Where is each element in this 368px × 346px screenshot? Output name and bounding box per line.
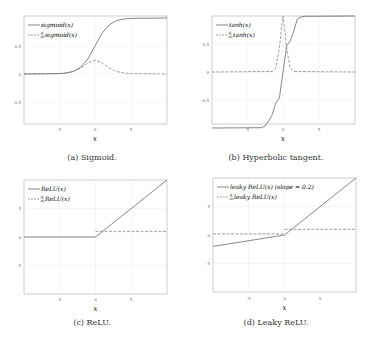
x-tick: -5 (247, 296, 251, 301)
svg-text:ReLU(x): ReLU(x) (44, 195, 71, 202)
y-tick: 5 (207, 204, 210, 209)
y-tick: 0 (207, 233, 210, 238)
svg-text:sigmoid(x): sigmoid(x) (41, 21, 74, 29)
leaky-relu-plot: 5 0 -5 -5 0 5 x leaky ReLU(x) (slope = 0… (184, 170, 368, 320)
caption-b: (b) Hyperbolic tangent. (184, 153, 368, 162)
caption-d: (d) Leaky ReLU. (184, 318, 368, 327)
y-tick: 5 (18, 206, 21, 211)
y-tick: -0.5 (201, 98, 209, 103)
svg-text:tanh(x): tanh(x) (233, 31, 255, 38)
x-tick: 5 (130, 127, 133, 132)
svg-text:leaky ReLU(x): leaky ReLU(x) (234, 193, 277, 201)
x-tick: 5 (319, 296, 322, 301)
x-axis-label: x (94, 305, 98, 313)
y-tick: 0.5 (15, 44, 22, 49)
y-tick: -0.5 (13, 100, 21, 105)
y-tick: -5 (17, 263, 21, 268)
sigmoid-plot: 0.5 0 -0.5 -5 0 5 x sigmoid(x) d dx sigm… (0, 0, 184, 150)
caption-a: (a) Sigmoid. (0, 153, 184, 162)
x-tick: 5 (130, 297, 133, 302)
svg-text:leaky ReLU(x) (slope = 0.2): leaky ReLU(x) (slope = 0.2) (230, 183, 314, 191)
svg-text:sigmoid(x): sigmoid(x) (45, 31, 78, 39)
y-tick: 0 (206, 70, 209, 75)
y-tick: 0 (18, 235, 21, 240)
x-tick: 0 (94, 297, 97, 302)
x-tick: 0 (283, 296, 286, 301)
x-tick: 5 (318, 127, 321, 132)
x-tick: 0 (282, 127, 285, 132)
x-axis-label: x (93, 135, 97, 143)
x-tick: -5 (57, 297, 61, 302)
y-tick: 0 (18, 72, 21, 77)
x-axis-label: x (281, 135, 285, 143)
x-tick: -5 (57, 127, 61, 132)
svg-text:tanh(x): tanh(x) (229, 21, 251, 28)
x-axis-label: x (283, 304, 287, 312)
caption-c: (c) ReLU. (0, 318, 184, 327)
x-tick: 0 (94, 127, 97, 132)
svg-text:ReLU(x): ReLU(x) (40, 185, 67, 192)
relu-plot: 5 0 -5 -5 0 5 x ReLU(x) d dx ReLU(x) (0, 170, 184, 320)
y-tick: 0.5 (203, 42, 210, 47)
tanh-plot: 0.5 0 -0.5 -5 0 5 x tanh(x) d dx tanh(x) (184, 0, 368, 150)
y-tick: -5 (206, 261, 210, 266)
